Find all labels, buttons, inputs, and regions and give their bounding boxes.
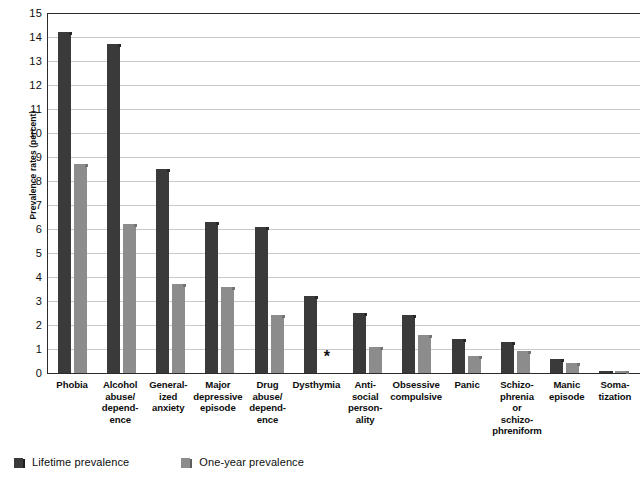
bar-group[interactable]: * bbox=[294, 13, 343, 373]
bar-cap bbox=[134, 224, 137, 227]
bar-one-year[interactable] bbox=[271, 315, 285, 373]
bar-one-year[interactable] bbox=[74, 164, 88, 373]
x-tick-label-line: ized bbox=[145, 391, 191, 403]
bar-lifetime[interactable] bbox=[353, 313, 367, 373]
y-axis-tick-labels: 0123456789101112131415 bbox=[0, 13, 42, 373]
bar-one-year[interactable] bbox=[123, 224, 137, 373]
bar-face bbox=[255, 227, 268, 373]
bar-cap bbox=[266, 227, 269, 230]
x-tick-label-line: person- bbox=[342, 402, 388, 414]
bar-cap bbox=[463, 339, 466, 342]
legend-swatch-lifetime bbox=[14, 457, 25, 468]
bar-face bbox=[123, 224, 136, 373]
x-tick-label-line: ality bbox=[342, 414, 388, 426]
y-tick-label: 10 bbox=[2, 127, 42, 139]
bar-cap bbox=[315, 296, 318, 299]
bar-one-year[interactable] bbox=[418, 335, 432, 373]
x-tick-label-line: episode bbox=[193, 402, 242, 414]
x-tick-label-line: social bbox=[342, 391, 388, 403]
bar-group[interactable] bbox=[344, 13, 393, 373]
bar-group[interactable] bbox=[245, 13, 294, 373]
bar-group[interactable] bbox=[590, 13, 639, 373]
bar-lifetime[interactable] bbox=[156, 169, 170, 373]
legend-item[interactable]: Lifetime prevalence bbox=[14, 456, 129, 468]
x-tick-label: Phobia bbox=[48, 379, 96, 437]
x-tick-label: Soma-tization bbox=[591, 379, 639, 437]
x-tick-label: Schizo-phreniaorschizo-phreniform bbox=[491, 379, 543, 437]
swatch-sside bbox=[190, 459, 193, 468]
x-tick-label-line: or bbox=[492, 402, 542, 414]
x-tick-label-line: abuse/ bbox=[97, 391, 143, 403]
bar-group[interactable] bbox=[393, 13, 442, 373]
x-tick-label-line: ence bbox=[244, 414, 290, 426]
legend-item[interactable]: One-year prevalence bbox=[181, 456, 304, 468]
missing-data-asterisk: * bbox=[320, 13, 334, 373]
x-tick-label-line: ence bbox=[97, 414, 143, 426]
x-tick-label-line: Major bbox=[193, 379, 242, 391]
bar-one-year[interactable] bbox=[517, 351, 531, 373]
asterisk-glyph: * bbox=[324, 353, 330, 373]
bar-lifetime[interactable] bbox=[501, 342, 515, 373]
bar-cap bbox=[118, 44, 121, 47]
bar-cap bbox=[216, 222, 219, 225]
bar-face bbox=[107, 44, 120, 373]
x-tick-label-line: depend- bbox=[244, 402, 290, 414]
y-tick-label: 14 bbox=[2, 31, 42, 43]
bar-lifetime[interactable] bbox=[402, 315, 416, 373]
bar-one-year[interactable] bbox=[369, 347, 383, 373]
x-tick-label-line: schizo- bbox=[492, 414, 542, 426]
bar-cap bbox=[429, 335, 432, 338]
bar-lifetime[interactable] bbox=[107, 44, 121, 373]
x-tick-label: Majordepressiveepisode bbox=[192, 379, 243, 437]
bar-lifetime[interactable] bbox=[255, 227, 269, 373]
y-tick-label: 12 bbox=[2, 79, 42, 91]
bar-one-year[interactable] bbox=[468, 356, 482, 373]
bar-group[interactable] bbox=[541, 13, 590, 373]
bar-group[interactable] bbox=[196, 13, 245, 373]
bar-one-year[interactable] bbox=[615, 371, 629, 373]
bar-group[interactable] bbox=[147, 13, 196, 373]
x-tick-label-line: phrenia bbox=[492, 391, 542, 403]
bar-face bbox=[402, 315, 415, 373]
bar-one-year[interactable] bbox=[566, 363, 580, 373]
x-tick-label-line: phreniform bbox=[492, 425, 542, 437]
y-tick-label: 4 bbox=[2, 271, 42, 283]
x-tick-label-line: episode bbox=[544, 391, 590, 403]
x-tick-label-line: Soma- bbox=[592, 379, 638, 391]
x-tick-label-line: depend- bbox=[97, 402, 143, 414]
bar-cap bbox=[167, 169, 170, 172]
bar-lifetime[interactable] bbox=[205, 222, 219, 373]
y-tick-label: 0 bbox=[2, 367, 42, 379]
bar-face bbox=[271, 315, 284, 373]
bar-lifetime[interactable] bbox=[304, 296, 318, 373]
y-tick-label: 8 bbox=[2, 175, 42, 187]
x-tick-label-line: tization bbox=[592, 391, 638, 403]
bar-face bbox=[205, 222, 218, 373]
x-tick-label-line: Phobia bbox=[49, 379, 95, 391]
bar-group[interactable] bbox=[491, 13, 540, 373]
bar-cap bbox=[69, 32, 72, 35]
y-tick-label: 11 bbox=[2, 103, 42, 115]
bar-group[interactable] bbox=[442, 13, 491, 373]
x-tick-label: Dysthymia bbox=[292, 379, 342, 437]
y-tick-label: 1 bbox=[2, 343, 42, 355]
legend-label: Lifetime prevalence bbox=[32, 456, 129, 468]
bar-lifetime[interactable] bbox=[550, 359, 564, 373]
bar-group[interactable] bbox=[48, 13, 97, 373]
bar-cap bbox=[183, 284, 186, 287]
y-tick-label: 15 bbox=[2, 7, 42, 19]
y-tick-label: 3 bbox=[2, 295, 42, 307]
x-tick-label-line: abuse/ bbox=[244, 391, 290, 403]
x-tick-label-line: Drug bbox=[244, 379, 290, 391]
x-tick-label: Alcoholabuse/depend-ence bbox=[96, 379, 144, 437]
bar-face bbox=[156, 169, 169, 373]
x-tick-label-line: Dysthymia bbox=[293, 379, 341, 391]
bar-lifetime[interactable] bbox=[599, 371, 613, 373]
bar-lifetime[interactable] bbox=[452, 339, 466, 373]
bar-one-year[interactable] bbox=[221, 287, 235, 373]
bar-face bbox=[501, 342, 514, 373]
bar-group[interactable] bbox=[97, 13, 146, 373]
bar-cap bbox=[85, 164, 88, 167]
bar-lifetime[interactable] bbox=[58, 32, 72, 373]
bar-one-year[interactable] bbox=[172, 284, 186, 373]
